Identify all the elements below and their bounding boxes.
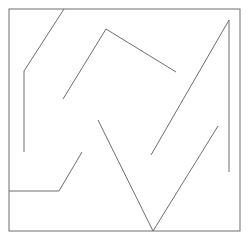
line-drawing-figure [0,0,248,249]
drawing-canvas [0,0,248,249]
canvas-background [0,0,248,249]
